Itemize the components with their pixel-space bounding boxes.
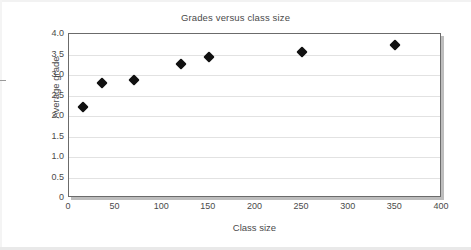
gridline-horizontal: [69, 75, 440, 76]
x-axis-tick-label: 150: [188, 201, 228, 212]
y-axis-tick-label: 1.5: [38, 131, 64, 141]
x-axis-tick-label: 400: [421, 201, 461, 212]
y-axis-tick-label: 1.0: [38, 151, 64, 161]
gridline-horizontal: [69, 96, 440, 97]
chart-title: Grades versus class size: [0, 12, 471, 23]
gridline-horizontal: [69, 55, 440, 56]
data-point-marker: [390, 39, 401, 50]
x-axis-tick-label: 250: [281, 201, 321, 212]
data-point-marker: [175, 58, 186, 69]
data-point-marker: [77, 101, 88, 112]
y-axis-tick-label: 0.5: [38, 172, 64, 182]
x-axis-tick-labels: 050100150200250300350400: [0, 201, 471, 215]
y-axis-tick-label: 3.5: [38, 49, 64, 59]
x-axis-tick-label: 0: [48, 201, 88, 212]
y-axis-tick-label: 3.0: [38, 69, 64, 79]
x-axis-tick-label: 300: [328, 201, 368, 212]
gridline-horizontal: [69, 137, 440, 138]
x-axis-tick-label: 50: [95, 201, 135, 212]
y-axis-tick-label: 4.0: [38, 28, 64, 38]
gridline-horizontal: [69, 116, 440, 117]
data-point-marker: [296, 46, 307, 57]
figure-container: Grades versus class size Average grade 0…: [0, 0, 471, 250]
gridline-horizontal: [69, 178, 440, 179]
data-point-marker: [96, 78, 107, 89]
data-point-marker: [203, 51, 214, 62]
x-axis-title: Class size: [68, 222, 441, 233]
x-axis-tick-label: 200: [235, 201, 275, 212]
gridline-horizontal: [69, 157, 440, 158]
margin-tick-mark: [0, 80, 6, 81]
y-axis-tick-label: 2.5: [38, 90, 64, 100]
x-axis-tick-label: 100: [141, 201, 181, 212]
plot-area: [68, 33, 441, 197]
page-edge-top: [0, 0, 471, 2]
y-axis-tick-label: 2.0: [38, 110, 64, 120]
x-axis-tick-label: 350: [374, 201, 414, 212]
